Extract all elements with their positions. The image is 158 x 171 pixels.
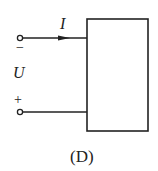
circuit-diagram: I − U + (D)	[0, 0, 158, 171]
circuit-svg	[0, 0, 158, 171]
voltage-label: U	[13, 64, 25, 82]
bottom-terminal	[17, 109, 22, 114]
top-polarity: −	[16, 40, 24, 56]
element-box	[87, 19, 148, 131]
current-arrow-icon	[58, 36, 70, 41]
figure-label: (D)	[70, 147, 94, 167]
current-label: I	[60, 15, 65, 33]
bottom-polarity: +	[14, 92, 22, 108]
